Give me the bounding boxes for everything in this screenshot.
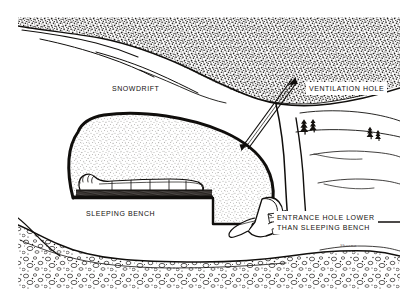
label-entrance-hole-line1: ENTRANCE HOLE LOWER [277,214,375,221]
label-sleeping-bench: SLEEPING BENCH [86,209,155,218]
conifer-tree [375,130,381,141]
snow-wall-right [276,104,400,222]
artist-signature: Sheena [340,243,356,248]
illustration-figure: SNOWDRIFT VENTILATION HOLE SLEEPING BENC… [0,0,418,302]
label-entrance-hole: ENTRANCE HOLE LOWERTHAN SLEEPING BENCH [274,211,378,234]
conifer-tree [367,127,374,140]
conifer-tree [300,119,308,134]
distant-snowfield [296,111,400,256]
snow-cave-cross-section-artwork [0,0,418,302]
sleeping-bench-platform [74,190,213,197]
label-snowdrift: SNOWDRIFT [112,84,159,93]
label-ventilation-hole: VENTILATION HOLE [306,82,387,95]
cave-interior [69,113,274,224]
label-entrance-hole-line2: THAN SLEEPING BENCH [277,224,370,231]
